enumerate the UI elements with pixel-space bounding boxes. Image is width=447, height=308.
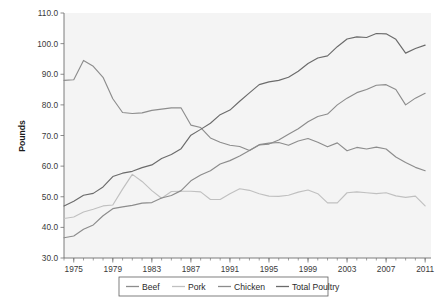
- line-chart: 30.040.050.060.070.080.090.0100.0110.0 1…: [0, 0, 447, 308]
- x-tick-label: 1975: [65, 264, 84, 274]
- x-tick-label: 2011: [416, 264, 434, 274]
- x-tick-label: 1999: [299, 264, 318, 274]
- x-tick-label: 1983: [143, 264, 162, 274]
- y-tick-label: 60.0: [42, 161, 59, 171]
- y-tick-label: 90.0: [42, 69, 59, 79]
- chart-container: 30.040.050.060.070.080.090.0100.0110.0 1…: [0, 0, 447, 308]
- x-tick-label: 1979: [104, 264, 123, 274]
- y-tick-label: 100.0: [37, 39, 58, 49]
- legend-item-label: Total Poultry: [292, 282, 340, 292]
- x-tick-label: 2007: [377, 264, 396, 274]
- plot-area-background: [64, 13, 431, 258]
- y-tick-label: 70.0: [42, 131, 59, 141]
- y-tick-label: 50.0: [42, 192, 59, 202]
- y-tick-label: 40.0: [42, 222, 59, 232]
- y-tick-label: 110.0: [38, 8, 59, 18]
- x-tick-label: 1995: [260, 264, 279, 274]
- y-axis-title: Pounds: [17, 120, 27, 152]
- legend-item-label: Chicken: [234, 282, 265, 292]
- legend-item-label: Beef: [142, 282, 160, 292]
- x-tick-label: 1987: [182, 264, 201, 274]
- x-tick-label: 1991: [221, 264, 240, 274]
- y-tick-label: 30.0: [42, 253, 59, 263]
- legend-item-label: Pork: [188, 282, 206, 292]
- chart-legend: BeefPorkChickenTotal Poultry: [119, 277, 340, 296]
- x-tick-label: 2003: [338, 264, 357, 274]
- y-tick-label: 80.0: [42, 100, 59, 110]
